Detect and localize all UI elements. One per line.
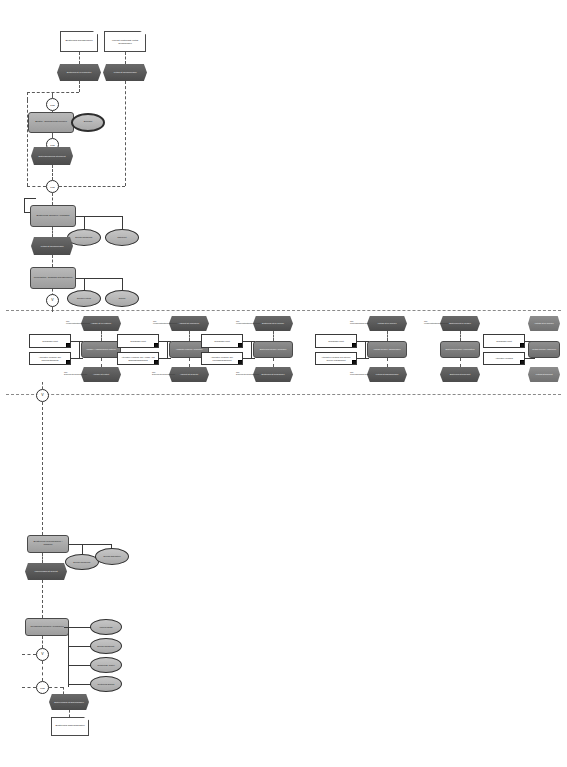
or-operator-band-entry: V xyxy=(46,294,59,307)
org-unit-einkauf-sachbearb-2-label: Einkauf Sachbearb. xyxy=(73,561,90,563)
function-bestellanforderung-pruefen-label: Bestell- anforderung pruefen xyxy=(35,121,67,124)
band-event-top-g3-label: Bestellung ist zu pruefen xyxy=(262,322,284,324)
org-unit-einkauf-top: Einkauf xyxy=(71,113,105,132)
connector-e3-xor3 xyxy=(52,165,53,180)
connector-g4-bottom xyxy=(387,358,388,367)
org-unit-rechnungswesen-label: Rechnungs- wesen xyxy=(97,664,114,666)
band-right-data-in-label: Grundlagen Input xyxy=(496,340,511,342)
function-rechnung-pruefen-label: Rechnung pruefen / freigeben xyxy=(30,626,63,629)
band-event-bottom-g4: Vertrag ist abgeschlossen xyxy=(367,367,407,382)
band-event-bottom-g5: Bestellung ist gesendet xyxy=(440,367,480,382)
connector-final-event-down xyxy=(69,710,70,717)
connector-f2-org2-drop xyxy=(122,216,123,229)
connector-f2-left-bracket-bottom xyxy=(24,212,30,213)
band-event-bottom-g4-prefix: QM-Prozessmanagement xyxy=(350,371,368,378)
connector-bf3-down xyxy=(42,636,43,648)
end-note-bestellung-abgeschlossen-label: Bestellung abgeschlossen xyxy=(55,725,84,728)
org-unit-einkauf-sachbearb-1-label: Einkauf Sachbearb. xyxy=(75,236,92,238)
band-function-g4: Vertrag pruefen / abschliessen xyxy=(367,341,407,358)
connector-e2-to-xor3 xyxy=(59,186,125,187)
band-function-g5: Bestellung senden / uebermitteln xyxy=(440,341,480,358)
connector-g4-datain xyxy=(357,341,369,342)
band-data-alt-g2-label: Alternative Loesung: QM-Anlage- und Besc… xyxy=(121,356,155,360)
connector-f2-orgrail xyxy=(76,216,122,217)
event-wareneingang-gebucht: Wareneingang ist gebucht xyxy=(25,563,67,580)
band-event-bottom-g3-label: Bestellung ist freigegeben xyxy=(261,373,284,375)
or-operator-band-exit-glyph: V xyxy=(41,394,43,398)
band-data-in-g1-label: Grundlagen Input xyxy=(42,340,57,342)
band-data-alt-g1-pin xyxy=(66,360,71,365)
connector-or-band-entry-out xyxy=(52,307,53,312)
xor-operator-bottom-final-glyph: XOR xyxy=(40,687,44,689)
band-event-top-g1-label: Anfrage ist zu erstellen xyxy=(91,322,111,324)
event-bestellanforderung-geprueft-label: Bestellanforderung ist geprueft xyxy=(38,155,65,157)
connector-g1-datain xyxy=(71,341,83,342)
connector-g3-datajoin xyxy=(251,341,252,358)
band-data-alt-g3: Alternative Loesung: QM-Prozessmanagemen… xyxy=(201,352,243,365)
org-unit-einkauf-disposition-label: Einkauf Disposition xyxy=(103,555,120,557)
connector-f2-left-bracket xyxy=(24,198,25,212)
connector-f2-down xyxy=(52,227,53,237)
connector-f2-org1-drop xyxy=(84,216,85,229)
function-lieferantenauswahl-label: Lieferanten- auswahl durchfuehren xyxy=(34,277,73,280)
function-bestellung-ueberwachen: Bestellung ueberwachen / mahnen xyxy=(27,535,69,553)
xor-operator-bottom-final: XOR xyxy=(36,681,49,694)
connector-g2-top xyxy=(189,331,190,341)
org-unit-einkauf-sachbearb-2: Einkauf Sachbearb. xyxy=(65,554,99,570)
connector-xor3-left-in xyxy=(27,186,46,187)
band-function-g4-label: Vertrag pruefen / abschliessen xyxy=(373,348,400,350)
band-right-data-alt-pin xyxy=(520,360,525,365)
connector-band-exit xyxy=(42,382,43,389)
org-unit-einkauf-disposition: Einkauf Disposition xyxy=(95,548,129,565)
band-event-top-g5-prefix: QM-Konformitaetsmanagement xyxy=(424,320,442,327)
band-function-g1-label: Anfrage / Ausschreibung erstellen xyxy=(86,348,116,350)
band-data-alt-g4: Alternative Loesung: QM-Service Service-… xyxy=(315,352,357,365)
event-bestellung-zu-bearbeiten-label: Bestellung ist zu bearbeiten xyxy=(67,71,92,73)
event-vertrag-abzuschliessen-label: Vertrag ist abzuschliessen xyxy=(113,71,136,73)
band-data-alt-g1-label: Alternative Loesung: QM-Sicherheitsloesu… xyxy=(33,356,67,360)
org-unit-controlling-einkauf-label: Controlling Einkauf xyxy=(98,683,115,685)
org-unit-disponent: Disponent xyxy=(105,229,139,246)
org-unit-einkauf-leitung-label: Einkauf Leitung xyxy=(77,297,91,299)
connector-e1-down xyxy=(79,81,80,92)
band-data-in-g3-label: Grundlagen Input xyxy=(214,340,229,342)
event-wareneingang-gebucht-label: Wareneingang ist gebucht xyxy=(34,570,57,572)
event-bestellvorgang-abgeschlossen: Bestellvorgang ist abgeschlossen xyxy=(49,694,89,710)
band-event-top-g4: Vertrag ist zu pruefen xyxy=(367,316,407,331)
function-lieferantenauswahl: Lieferanten- auswahl durchfuehren xyxy=(30,267,76,289)
band-right-event-top-label: Vertrag ist zu pruefen xyxy=(534,322,553,324)
band-data-in-g1-pin xyxy=(66,343,71,348)
band-event-bottom-g1-prefix: QM-Dokumentenmanagement xyxy=(64,371,82,378)
connector-g4-datajoin xyxy=(365,341,366,358)
epc-diagram-canvas: Bestellung durchfuehren Lieferant versta… xyxy=(0,0,567,767)
connector-g2-dataalt xyxy=(159,358,171,359)
event-vertrag-abzuschliessen: Vertrag ist abzuschliessen xyxy=(103,64,147,81)
band-data-in-g1: Grundlagen Input xyxy=(29,334,71,348)
org-unit-einkauf-top-label: Einkauf xyxy=(84,121,92,124)
xor-operator-3: XOR xyxy=(46,180,59,193)
connector-bf3-org4 xyxy=(68,684,92,685)
org-unit-einkauf-sachbearb-3-label: Einkauf Sachbearb. xyxy=(97,645,114,647)
band-function-g5-label: Bestellung senden / uebermitteln xyxy=(445,348,474,350)
org-unit-disponent-label: Disponent xyxy=(117,236,126,238)
start-event-bestellung-label: Bestellung durchfuehren xyxy=(65,40,92,43)
band-function-g3-label: Bestellung pruefen / freigeben xyxy=(260,348,287,350)
connector-g4-top xyxy=(387,331,388,341)
connector-g5-top xyxy=(460,331,461,341)
band-data-in-g3: Grundlagen Input xyxy=(201,334,243,348)
connector-be1-down xyxy=(42,580,43,618)
event-bestellvorgang-abgeschlossen-label: Bestellvorgang ist abgeschlossen xyxy=(54,701,84,703)
connector-f3-org1-drop xyxy=(84,278,85,290)
connector-g1-dataalt xyxy=(71,358,83,359)
band-data-alt-g2-pin xyxy=(154,360,159,365)
band-data-alt-g3-pin xyxy=(238,360,243,365)
event-bestellung-angelegt: Vertrag ist abzuschliessen xyxy=(31,237,73,255)
function-bestellanforderung-pruefen: Bestell- anforderung pruefen xyxy=(28,112,74,133)
connector-g3-datain xyxy=(243,341,255,342)
org-unit-controlling-einkauf: Controlling Einkauf xyxy=(90,676,122,692)
connector-band-to-bottom xyxy=(42,402,43,535)
connector-f2-left-bracket-top xyxy=(24,198,36,199)
connector-left-rail-down2 xyxy=(27,100,28,186)
band-data-alt-g1: Alternative Loesung: QM-Sicherheitsloesu… xyxy=(29,352,71,365)
band-event-top-g1-prefix: QM-Konformitaetsmanagement xyxy=(66,320,84,327)
